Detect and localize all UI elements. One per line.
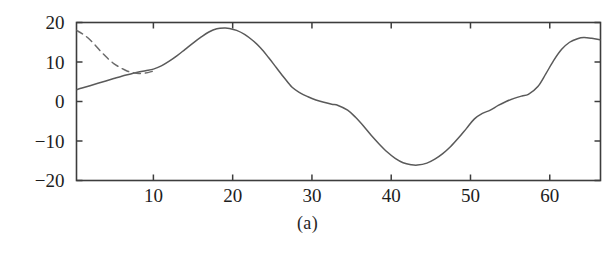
figure-panel: 102030405060−20−1001020 (a)	[0, 0, 615, 259]
figure-caption: (a)	[0, 213, 615, 234]
y-tick-label-10: 10	[46, 52, 65, 73]
x-tick-label-60: 60	[540, 185, 559, 206]
series-solid-curve	[77, 28, 601, 165]
y-tick-label-20: 20	[46, 12, 65, 33]
y-tick-label-neg10: −10	[35, 131, 65, 152]
plot-frame	[77, 23, 601, 181]
x-tick-label-40: 40	[382, 185, 401, 206]
x-tick-label-10: 10	[144, 185, 163, 206]
y-tick-label-neg20: −20	[35, 170, 65, 191]
x-tick-label-30: 30	[302, 185, 321, 206]
x-tick-label-20: 20	[223, 185, 242, 206]
series-dashed-curve	[77, 30, 157, 73]
y-tick-label-0: 0	[55, 91, 65, 112]
x-tick-label-50: 50	[461, 185, 480, 206]
series-group	[77, 28, 601, 165]
